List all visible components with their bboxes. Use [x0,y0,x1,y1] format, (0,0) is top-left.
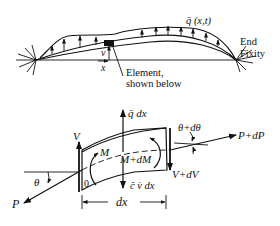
m-left-moment-arrow [90,153,98,185]
theta-d-arc-upper [190,132,193,141]
pdp-label: P+dP [237,129,265,141]
element-label-line1: Element, [126,67,164,78]
left-fixity-icon [16,45,36,75]
element-free-body: P P+dP θ θ+dθ V V+dV M M+dM q̄ dx c̄ v̇ … [11,107,265,211]
theta-d-label: θ+dθ [178,122,201,133]
theta-arc [48,172,49,183]
dx-label: dx [116,195,128,209]
load-label: q̄ (x,t) [186,15,212,27]
p-label: P [11,197,20,211]
theta-d-arc-lower [193,147,194,154]
x-label: x [100,62,106,73]
q-dx-label: q̄ dx [128,107,147,119]
theta-label: θ [34,176,40,188]
beam-overview: v x Element, shown below q̄ (x,t) End Fi… [16,15,266,89]
p-right-line [170,135,236,150]
fixity-label-line2: Fixity [240,48,266,59]
inertia-label: c̄ v̇ dx [130,180,155,191]
p-left-line [24,170,82,203]
mdm-label: M+dM [119,153,152,165]
v-label: v [101,47,106,58]
origin-label: 0 [84,178,89,189]
distributed-load-arrows [52,26,218,54]
m-label: M [99,146,110,158]
beam-element-diagram: v x Element, shown below q̄ (x,t) End Fi… [0,0,280,226]
v-force-label: V [73,130,81,142]
element-label-line2: shown below [126,78,182,89]
vdv-label: V+dV [172,168,200,180]
mdm-right-moment-arrow [150,138,160,168]
fixity-label-line1: End [240,36,258,47]
